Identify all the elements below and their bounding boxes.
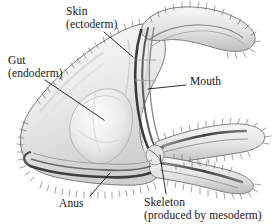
- label-skeleton: Skeleton (produced by mesoderm): [144, 196, 262, 221]
- label-skin: Skin (ectoderm): [66, 5, 117, 30]
- label-skeleton-line2: (produced by mesoderm): [144, 209, 262, 222]
- larva-illustration: [0, 0, 277, 224]
- label-skeleton-line1: Skeleton: [144, 196, 262, 209]
- label-anus-line1: Anus: [59, 197, 84, 210]
- label-mouth: Mouth: [190, 75, 221, 88]
- label-gut: Gut (endoderm): [8, 54, 63, 79]
- label-anus: Anus: [59, 197, 84, 210]
- label-skin-line1: Skin: [66, 5, 117, 18]
- label-mouth-line1: Mouth: [190, 75, 221, 88]
- larva-anatomy-figure: Skin (ectoderm) Gut (endoderm) Mouth Anu…: [0, 0, 277, 224]
- label-gut-line1: Gut: [8, 54, 63, 67]
- label-gut-line2: (endoderm): [8, 67, 63, 80]
- label-skin-line2: (ectoderm): [66, 18, 117, 31]
